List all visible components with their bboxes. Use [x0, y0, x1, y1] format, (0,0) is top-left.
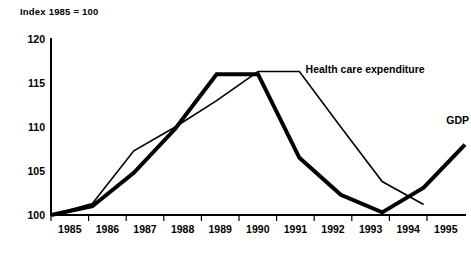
ytick-label-100: 100 [27, 209, 45, 221]
series-label-gdp: GDP [446, 114, 469, 126]
xtick-label-1989: 1989 [209, 223, 233, 235]
xtick-label-1987: 1987 [133, 223, 157, 235]
line-chart-plot: 120 115 110 105 100 1985 1986 1987 1988 … [0, 0, 471, 254]
xtick-label-1991: 1991 [284, 223, 308, 235]
xtick-label-1994: 1994 [397, 223, 421, 235]
xtick-label-1988: 1988 [171, 223, 195, 235]
xtick-label-1995: 1995 [434, 223, 458, 235]
ytick-label-110: 110 [28, 121, 45, 133]
chart-figure: Index 1985 = 100 120 115 110 105 100 198… [0, 0, 471, 254]
xtick-label-1990: 1990 [246, 223, 270, 235]
series-label-health-care-expenditure: Health care expenditure [306, 63, 425, 75]
ytick-label-105: 105 [27, 165, 45, 177]
xtick-label-1993: 1993 [359, 223, 383, 235]
ytick-label-115: 115 [28, 77, 45, 89]
xtick-label-1992: 1992 [321, 223, 345, 235]
xtick-label-1985: 1985 [58, 223, 82, 235]
xtick-label-1986: 1986 [96, 223, 120, 235]
ytick-label-120: 120 [27, 33, 45, 45]
